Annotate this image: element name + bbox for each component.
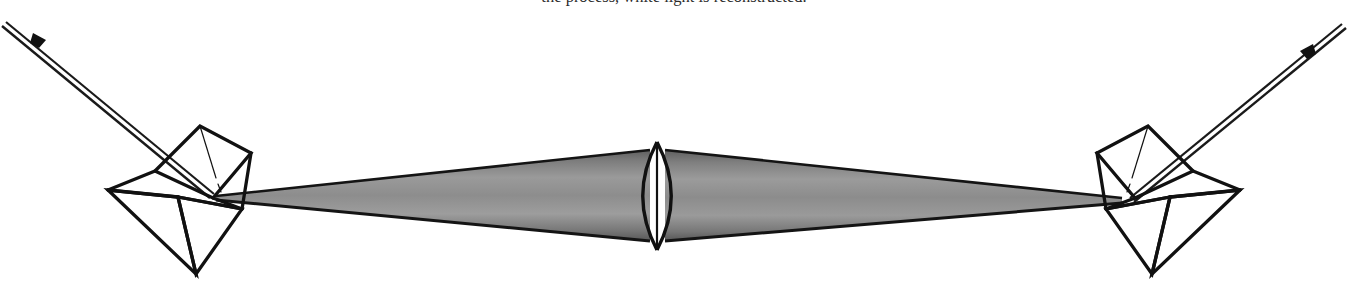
left-ray-arrow-icon xyxy=(30,33,46,48)
left-prism-front-triangle xyxy=(108,190,196,274)
left-incident-ray xyxy=(2,22,214,198)
left-prism-edge-a xyxy=(108,190,178,197)
beam-left-half xyxy=(216,150,650,241)
right-prism-front-triangle xyxy=(1152,190,1240,274)
light-beam-group xyxy=(216,150,1122,241)
left-prism-left-edge xyxy=(108,171,155,190)
optical-diagram-figure xyxy=(0,0,1348,303)
right-emergent-ray xyxy=(1130,24,1346,202)
right-prism-left-edge xyxy=(1193,171,1240,190)
left-ray-stroke-a xyxy=(2,26,210,198)
left-ray-stroke-b xyxy=(6,22,214,194)
beam-right-half xyxy=(665,150,1122,241)
figure-page: the process, white light is reconstructe… xyxy=(0,0,1348,303)
right-prism-edge-a xyxy=(1170,190,1240,197)
